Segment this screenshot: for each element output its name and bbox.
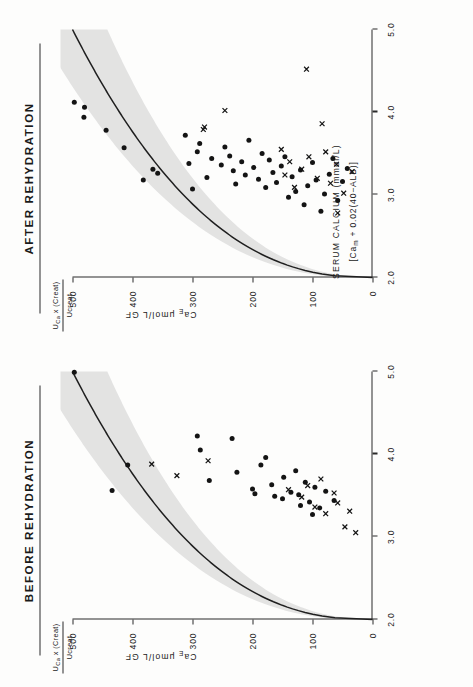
panel-title-after: AFTER REHYDRATION bbox=[22, 43, 40, 313]
data-point-dot bbox=[227, 153, 232, 158]
data-point-dot bbox=[259, 151, 264, 156]
data-point-dot bbox=[289, 174, 294, 179]
y-tick-label-before-5: 0 bbox=[367, 632, 377, 638]
data-point-dot bbox=[269, 482, 274, 487]
data-point-cross bbox=[342, 524, 347, 529]
scatter-svg-before bbox=[72, 371, 372, 619]
data-point-dot bbox=[301, 202, 306, 207]
data-point-dot bbox=[263, 184, 268, 189]
x-tick-before-1: 3.0 bbox=[372, 535, 377, 536]
plot-area-before: 5004003002001000 2.03.04.05.0 bbox=[72, 371, 372, 619]
data-point-dot bbox=[242, 172, 247, 177]
data-point-dot bbox=[109, 488, 114, 493]
y-tick-after-0: 500 bbox=[72, 277, 73, 282]
data-point-cross bbox=[323, 149, 328, 154]
data-point-dot bbox=[274, 179, 279, 184]
confidence-band bbox=[60, 371, 372, 619]
data-point-dot bbox=[266, 157, 271, 162]
y-tick-label-after-0: 500 bbox=[67, 290, 77, 307]
x-tick-after-1: 3.0 bbox=[372, 193, 377, 194]
data-point-dot bbox=[258, 462, 263, 467]
data-point-dot bbox=[256, 176, 261, 181]
x-tick-before-0: 2.0 bbox=[372, 618, 377, 619]
x-tick-before-3: 5.0 bbox=[372, 370, 377, 371]
data-point-dot bbox=[282, 154, 287, 159]
data-point-dot bbox=[251, 165, 256, 170]
yaxis-title-after: CaE μmol/L GF bbox=[124, 307, 196, 319]
data-point-dot bbox=[234, 469, 239, 474]
yaxis-title-before: CaE μmol/L GF bbox=[124, 649, 196, 661]
y-tick-label-before-3: 200 bbox=[247, 632, 257, 649]
data-point-dot bbox=[270, 170, 275, 175]
data-point-cross bbox=[287, 159, 292, 164]
panel-title-before: BEFORE REHYDRATION bbox=[22, 385, 40, 655]
data-point-dot bbox=[281, 474, 286, 479]
data-point-cross bbox=[174, 473, 179, 478]
data-point-dot bbox=[272, 493, 277, 498]
data-point-dot bbox=[298, 502, 303, 507]
y-tick-label-after-4: 100 bbox=[307, 290, 317, 307]
data-point-cross bbox=[347, 508, 352, 513]
x-tick-label-after-3: 5.0 bbox=[385, 22, 395, 37]
y-tick-label-after-1: 400 bbox=[127, 290, 137, 307]
data-point-dot bbox=[305, 183, 310, 188]
data-point-dot bbox=[182, 132, 187, 137]
panel-after-rehydration: AFTER REHYDRATION UCa x (Creat) Ucreat C… bbox=[0, 5, 473, 335]
data-point-cross bbox=[304, 66, 309, 71]
y-tick-label-before-2: 300 bbox=[187, 632, 197, 649]
data-point-dot bbox=[209, 155, 214, 160]
data-point-dot bbox=[286, 194, 291, 199]
xaxis-title-line1: SERUM CALCIUM (mmol/L) bbox=[330, 144, 340, 279]
data-point-dot bbox=[186, 160, 191, 165]
data-point-dot bbox=[293, 468, 298, 473]
data-point-cross bbox=[318, 476, 323, 481]
data-point-dot bbox=[81, 114, 86, 119]
data-point-cross bbox=[278, 146, 283, 151]
data-point-dot bbox=[278, 163, 283, 168]
y-tick-before-4: 100 bbox=[312, 619, 313, 624]
y-tick-before-0: 500 bbox=[72, 619, 73, 624]
y-tick-before-5: 0 bbox=[372, 619, 373, 624]
xaxis-title-line2: [Cam + 0.02(40−ALB)] bbox=[347, 87, 359, 335]
x-tick-label-before-0: 2.0 bbox=[385, 612, 395, 627]
plot-area-after: 5004003002001000 2.03.04.05.0 bbox=[72, 29, 372, 277]
data-point-dot bbox=[252, 491, 257, 496]
data-point-dot bbox=[197, 141, 202, 146]
y-tick-after-3: 200 bbox=[252, 277, 253, 282]
x-tick-label-after-1: 3.0 bbox=[385, 187, 395, 202]
x-tick-label-before-2: 4.0 bbox=[385, 446, 395, 461]
x-tick-after-0: 2.0 bbox=[372, 276, 377, 277]
data-point-dot bbox=[250, 486, 255, 491]
data-point-cross bbox=[205, 458, 210, 463]
xaxis-title-after: SERUM CALCIUM (mmol/L) [Cam + 0.02(40−AL… bbox=[330, 87, 359, 335]
yaxis-fraction-numerator-after: UCa x (Creat) bbox=[50, 279, 63, 331]
y-tick-label-after-3: 200 bbox=[247, 290, 257, 307]
data-point-dot bbox=[230, 168, 235, 173]
data-point-cross bbox=[282, 172, 287, 177]
y-tick-after-5: 0 bbox=[372, 277, 373, 282]
y-tick-before-2: 300 bbox=[192, 619, 193, 624]
data-point-dot bbox=[194, 149, 199, 154]
x-tick-label-before-1: 3.0 bbox=[385, 529, 395, 544]
figure-rotation-wrapper: BEFORE REHYDRATION UCa x (Creat) Ucreat … bbox=[0, 0, 473, 687]
data-point-dot bbox=[229, 435, 234, 440]
data-point-dot bbox=[322, 191, 327, 196]
yaxis-fraction-numerator-before: UCa x (Creat) bbox=[50, 621, 63, 673]
y-tick-label-after-5: 0 bbox=[367, 290, 377, 296]
data-point-dot bbox=[222, 144, 227, 149]
data-point-dot bbox=[310, 160, 315, 165]
data-point-dot bbox=[206, 478, 211, 483]
data-point-dot bbox=[331, 497, 336, 502]
data-point-dot bbox=[239, 159, 244, 164]
y-tick-label-before-4: 100 bbox=[307, 632, 317, 649]
data-point-cross bbox=[312, 504, 317, 509]
x-tick-after-2: 4.0 bbox=[372, 110, 377, 111]
figure-root: BEFORE REHYDRATION UCa x (Creat) Ucreat … bbox=[0, 0, 473, 687]
data-point-dot bbox=[280, 496, 285, 501]
data-point-dot bbox=[194, 433, 199, 438]
data-point-dot bbox=[318, 208, 323, 213]
y-tick-label-before-1: 400 bbox=[127, 632, 137, 649]
x-tick-after-3: 5.0 bbox=[372, 28, 377, 29]
x-tick-label-after-0: 2.0 bbox=[385, 270, 395, 285]
data-point-cross bbox=[286, 487, 291, 492]
